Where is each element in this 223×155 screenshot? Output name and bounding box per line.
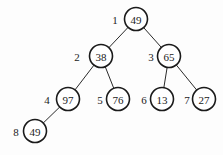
tree-node-1: 491 (112, 8, 147, 31)
node-value: 27 (199, 94, 211, 106)
node-index-label: 3 (148, 51, 154, 63)
edge-1-2 (109, 27, 128, 47)
node-value: 49 (131, 14, 143, 26)
node-index-label: 2 (74, 51, 80, 63)
node-value: 49 (30, 126, 42, 138)
tree-node-2: 382 (74, 45, 112, 68)
edge-4-8 (43, 107, 59, 123)
node-index-label: 4 (44, 94, 50, 106)
edge-1-3 (144, 28, 162, 48)
nodes-group: 491382653974765136277498 (13, 8, 215, 143)
node-index-label: 6 (141, 94, 147, 106)
node-index-label: 7 (184, 94, 190, 106)
tree-node-5: 765 (97, 88, 129, 111)
node-index-label: 8 (13, 126, 19, 138)
node-value: 13 (157, 94, 169, 106)
tree-node-4: 974 (44, 88, 79, 111)
node-value: 65 (164, 51, 176, 63)
tree-svg: 491382653974765136277498 (0, 0, 223, 155)
edge-3-6 (164, 67, 167, 87)
node-value: 38 (96, 51, 108, 63)
node-value: 76 (113, 94, 125, 106)
edge-3-7 (176, 65, 196, 90)
edge-2-5 (105, 67, 114, 89)
node-index-label: 1 (112, 14, 118, 26)
edge-2-4 (75, 65, 94, 90)
tree-node-6: 136 (141, 88, 173, 111)
tree-node-8: 498 (13, 120, 46, 143)
tree-node-3: 653 (148, 45, 180, 68)
tree-node-7: 277 (184, 88, 215, 111)
node-index-label: 5 (97, 94, 103, 106)
heap-tree-diagram: 491382653974765136277498 (0, 0, 223, 155)
node-value: 97 (63, 94, 75, 106)
